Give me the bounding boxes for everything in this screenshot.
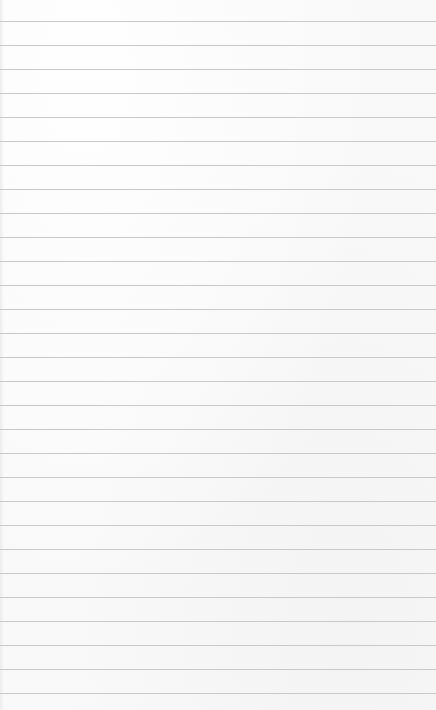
ruled-line — [0, 237, 436, 238]
ruled-line — [0, 381, 436, 382]
ruled-line — [0, 21, 436, 22]
ruled-line — [0, 333, 436, 334]
ruled-line — [0, 621, 436, 622]
ruled-line — [0, 429, 436, 430]
ruled-line — [0, 405, 436, 406]
ruled-line — [0, 117, 436, 118]
ruled-line — [0, 165, 436, 166]
ruled-line — [0, 597, 436, 598]
ruled-line — [0, 669, 436, 670]
ruled-line — [0, 477, 436, 478]
ruled-line — [0, 573, 436, 574]
ruled-line — [0, 213, 436, 214]
ruled-line — [0, 309, 436, 310]
ruled-line — [0, 93, 436, 94]
ruled-line — [0, 549, 436, 550]
ruled-line — [0, 45, 436, 46]
lined-paper-sheet — [0, 0, 436, 710]
ruled-line — [0, 357, 436, 358]
ruled-line — [0, 525, 436, 526]
ruled-line — [0, 189, 436, 190]
ruled-line — [0, 453, 436, 454]
ruled-line — [0, 261, 436, 262]
ruled-line — [0, 645, 436, 646]
ruled-line — [0, 69, 436, 70]
ruled-line — [0, 501, 436, 502]
ruled-line — [0, 693, 436, 694]
ruled-line — [0, 141, 436, 142]
ruled-line — [0, 285, 436, 286]
